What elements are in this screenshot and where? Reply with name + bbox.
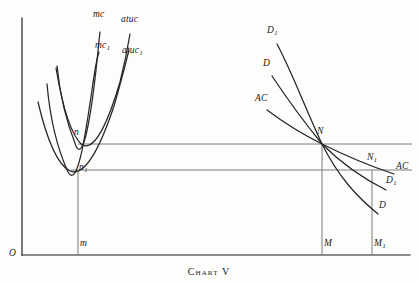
- curve-label-AC-top: AC: [255, 94, 268, 104]
- curve-mc1: [47, 52, 99, 175]
- curve-label-D1-top: D1: [267, 26, 278, 36]
- curve-D: [272, 76, 386, 190]
- curve-label-mc1: mc1: [95, 41, 110, 51]
- chart-plot-area: [0, 0, 418, 284]
- axis-label-origin: O: [9, 249, 16, 259]
- curve-label-D1-end: D1: [386, 176, 397, 186]
- point-label-n1: n1: [79, 163, 87, 173]
- axis-label-m: m: [80, 239, 87, 249]
- chart-caption: Chart V: [0, 266, 418, 277]
- curve-AC: [267, 110, 394, 174]
- point-label-n: n: [74, 128, 79, 138]
- curve-label-atuc: atuc: [121, 15, 138, 25]
- curve-label-AC-end: AC: [396, 162, 409, 172]
- axis-label-M: M: [324, 239, 332, 249]
- axis-label-M1: M1: [374, 239, 386, 249]
- curve-D1: [277, 44, 378, 214]
- point-label-N: N: [317, 127, 324, 137]
- curve-label-atuc1: atuc1: [122, 46, 143, 56]
- chart-figure: mc mc1 atuc atuc1 D1 D AC AC D1 D n n1 N…: [0, 0, 418, 284]
- point-label-N1: N1: [367, 153, 377, 163]
- curve-atuc1: [38, 50, 129, 172]
- curve-label-D-top: D: [263, 59, 270, 69]
- curve-label-mc: mc: [93, 10, 104, 20]
- curve-label-D-end: D: [379, 201, 386, 211]
